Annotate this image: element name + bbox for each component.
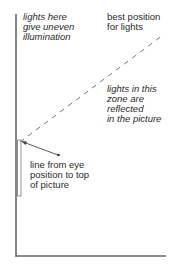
picture-frame (18, 140, 22, 196)
pointer-line (23, 142, 58, 155)
pointer-dot (57, 154, 60, 157)
label-best-position: best position for lights (107, 12, 160, 32)
label-eye-line: line from eye position to top of picture (30, 160, 89, 190)
label-reflected-zone: lights in this zone are reflected in the… (107, 84, 161, 124)
arrowhead-icon (21, 141, 27, 145)
label-uneven-illumination: lights here give uneven illumination (23, 12, 74, 42)
